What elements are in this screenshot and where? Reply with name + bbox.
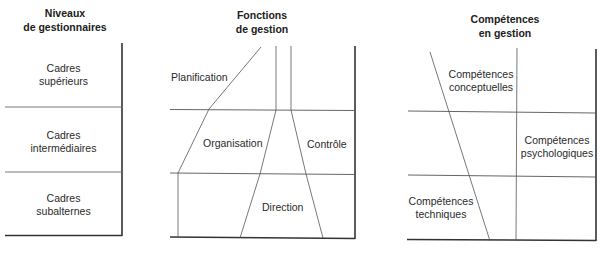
- function-organizing: Organisation: [203, 137, 263, 150]
- skills-title-line2: en gestion: [445, 26, 565, 40]
- level-middle-line2: intermédiaires: [5, 142, 122, 155]
- skill-conceptual-line2: conceptuelles: [444, 81, 518, 94]
- levels-title: Niveaux de gestionnaires: [5, 6, 125, 34]
- level-senior-line1: Cadres: [5, 62, 122, 75]
- level-first-line-managers: Cadres subalternes: [5, 192, 122, 218]
- level-first-line-line1: Cadres: [5, 192, 122, 205]
- skill-conceptual-line1: Compétences: [444, 68, 518, 81]
- level-senior-line2: supérieurs: [5, 75, 122, 88]
- skills-title: Compétences en gestion: [445, 12, 565, 40]
- functions-title-line1: Fonctions: [202, 8, 322, 22]
- function-directing: Direction: [262, 201, 303, 214]
- level-senior-managers: Cadres supérieurs: [5, 62, 122, 88]
- levels-title-line2: de gestionnaires: [5, 20, 125, 34]
- function-planning: Planification: [171, 71, 228, 84]
- skill-technical-line1: Compétences: [405, 195, 477, 208]
- level-middle-line1: Cadres: [5, 129, 122, 142]
- skill-technical-line2: techniques: [405, 208, 477, 221]
- functions-title: Fonctions de gestion: [202, 8, 322, 36]
- skill-psychological: Compétences psychologiques: [518, 134, 596, 160]
- skill-psychological-line2: psychologiques: [518, 147, 596, 160]
- skills-title-line1: Compétences: [445, 12, 565, 26]
- skill-technical: Compétences techniques: [405, 195, 477, 221]
- function-controlling: Contrôle: [307, 138, 347, 151]
- level-first-line-line2: subalternes: [5, 205, 122, 218]
- levels-title-line1: Niveaux: [5, 6, 125, 20]
- functions-title-line2: de gestion: [202, 22, 322, 36]
- skill-psychological-line1: Compétences: [518, 134, 596, 147]
- level-middle-managers: Cadres intermédiaires: [5, 129, 122, 155]
- skill-conceptual: Compétences conceptuelles: [444, 68, 518, 94]
